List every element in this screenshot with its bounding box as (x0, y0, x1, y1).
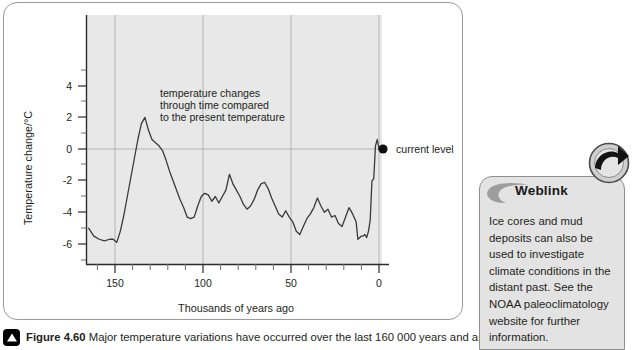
y-tick-label: -2 (63, 174, 72, 186)
x-axis-tick-labels: 150 100 50 0 (106, 277, 382, 289)
x-tick-label: 0 (376, 277, 382, 289)
svg-text:temperature changes: temperature changes (160, 87, 260, 99)
svg-text:to the present temperature: to the present temperature (160, 111, 285, 123)
figure-caption: Figure 4.60 Major temperature variations… (3, 326, 473, 348)
y-tick-label: -6 (63, 238, 72, 250)
chart-area: 4 2 0 -2 -4 -6 Temperature change/°C (4, 3, 464, 321)
circular-arrow-icon[interactable] (587, 141, 631, 185)
weblink-title: Weblink (515, 183, 568, 198)
y-tick-label: 2 (66, 111, 72, 123)
x-tick-label: 150 (106, 277, 124, 289)
figure-panel: 4 2 0 -2 -4 -6 Temperature change/°C (3, 2, 463, 320)
y-axis-minor-ticks (81, 70, 86, 260)
x-axis-major-ticks (115, 264, 379, 273)
plot-background (86, 15, 382, 264)
y-axis-major-ticks (78, 86, 86, 244)
svg-text:through time compared: through time compared (160, 99, 269, 111)
weblink-body: Ice cores and mud deposits can also be u… (480, 209, 624, 346)
triangle-bullet-icon (3, 329, 20, 346)
x-axis-title: Thousands of years ago (178, 302, 294, 314)
y-axis-title: Temperature change/°C (22, 111, 34, 225)
caption-label: Figure 4.60 (26, 331, 86, 343)
caption-text: Figure 4.60 Major temperature variations… (26, 330, 488, 344)
y-tick-label: -4 (63, 206, 72, 218)
y-axis-tick-labels: 4 2 0 -2 -4 -6 (63, 80, 73, 250)
caption-body: Major temperature variations have occurr… (89, 331, 488, 343)
current-level-marker (378, 144, 387, 153)
x-tick-label: 100 (194, 277, 212, 289)
current-level-label: current level (396, 143, 454, 155)
weblink-box: Weblink Ice cores and mud deposits can a… (479, 176, 625, 350)
y-tick-label: 0 (66, 143, 72, 155)
temperature-line-chart: 4 2 0 -2 -4 -6 Temperature change/°C (4, 3, 464, 321)
y-tick-label: 4 (66, 80, 72, 92)
x-tick-label: 50 (285, 277, 297, 289)
